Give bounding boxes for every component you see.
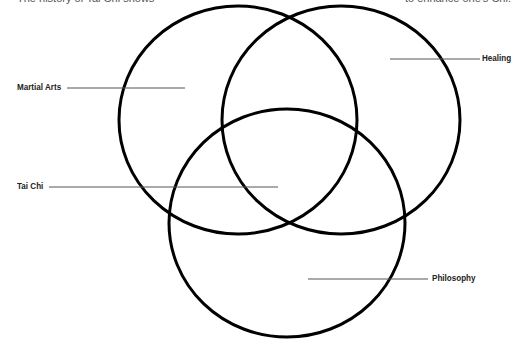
label-healing: Healing xyxy=(482,52,511,63)
label-tai-chi: Tai Chi xyxy=(17,180,43,191)
venn-diagram xyxy=(0,0,526,356)
label-martial-arts: Martial Arts xyxy=(17,81,61,92)
label-philosophy: Philosophy xyxy=(432,272,476,283)
